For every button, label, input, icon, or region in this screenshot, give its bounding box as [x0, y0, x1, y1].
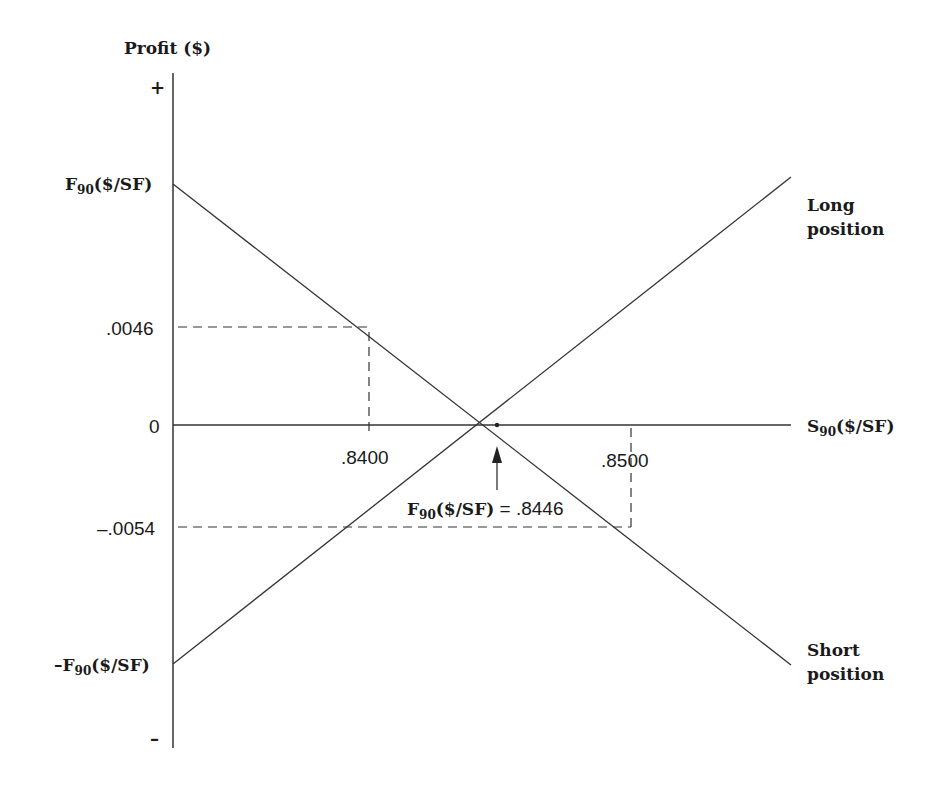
- x-axis-title: S90($/SF): [807, 418, 894, 435]
- breakeven-arrow-icon: [492, 446, 502, 490]
- long-position-label-line2: position: [807, 217, 884, 241]
- y-tick-negF90-main: –F: [54, 655, 75, 675]
- y-tick-F90-sub: 90: [77, 183, 94, 197]
- x-axis-title-unit: ($/SF): [836, 416, 894, 436]
- breakeven-label-unit: ($/SF): [436, 499, 494, 519]
- x-axis-title-main: S: [807, 416, 819, 436]
- x-axis-title-sub: 90: [819, 425, 836, 439]
- short-position-label-line2: position: [807, 662, 884, 686]
- breakeven-point: [495, 423, 499, 427]
- short-position-label: Short position: [807, 638, 884, 686]
- long-position-line: [173, 177, 791, 664]
- y-tick-negF90-sub: 90: [75, 664, 92, 678]
- y-tick-F90-main: F: [65, 174, 77, 194]
- y-tick-neg0054: –.0054: [97, 519, 155, 538]
- y-tick-zero: 0: [149, 417, 160, 436]
- x-tick-8500: .8500: [601, 451, 649, 470]
- breakeven-label-sub: 90: [419, 508, 436, 522]
- y-tick-0046: .0046: [106, 319, 154, 338]
- long-position-label-line1: Long: [807, 193, 884, 217]
- y-axis-title: Profit ($): [124, 40, 211, 57]
- y-tick-negF90: –F90($/SF): [54, 657, 150, 674]
- breakeven-label: F90($/SF) = .8446: [407, 499, 563, 518]
- y-tick-negF90-unit: ($/SF): [91, 655, 149, 675]
- y-tick-F90: F90($/SF): [65, 176, 152, 193]
- y-tick-F90-unit: ($/SF): [94, 174, 152, 194]
- short-position-label-line1: Short: [807, 638, 884, 662]
- long-position-label: Long position: [807, 193, 884, 241]
- dashed-guide-0046: [178, 327, 369, 437]
- y-axis-plus-sign: +: [150, 79, 165, 97]
- x-tick-8400: .8400: [341, 448, 389, 467]
- y-axis-minus-sign: –: [150, 730, 159, 748]
- breakeven-label-value: = .8446: [494, 498, 563, 519]
- breakeven-label-main: F: [407, 499, 419, 519]
